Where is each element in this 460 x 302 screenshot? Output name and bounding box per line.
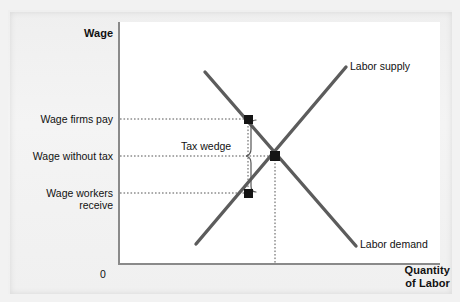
marker-wage-workers-receive bbox=[244, 189, 253, 198]
annotation-label-tax-wedge: Tax wedge bbox=[181, 140, 231, 152]
wage-label-without-tax: Wage without tax bbox=[18, 150, 113, 162]
wage-label-workers-receive: Wage workers receive bbox=[18, 187, 113, 211]
y-axis-title: Wage bbox=[84, 27, 113, 39]
origin-label: 0 bbox=[100, 268, 106, 280]
curve-label-labor-supply: Labor supply bbox=[350, 60, 410, 72]
x-axis-title: Quantity of Labor bbox=[405, 264, 450, 290]
figure-container: Wage Quantity of Labor 0 Wage firms pay … bbox=[0, 0, 460, 302]
marker-wage-firms-pay bbox=[244, 115, 253, 124]
marker-equilibrium bbox=[270, 151, 280, 161]
wage-label-firms-pay: Wage firms pay bbox=[18, 113, 113, 125]
curve-label-labor-demand: Labor demand bbox=[360, 238, 428, 250]
labor-demand-curve bbox=[205, 72, 356, 246]
